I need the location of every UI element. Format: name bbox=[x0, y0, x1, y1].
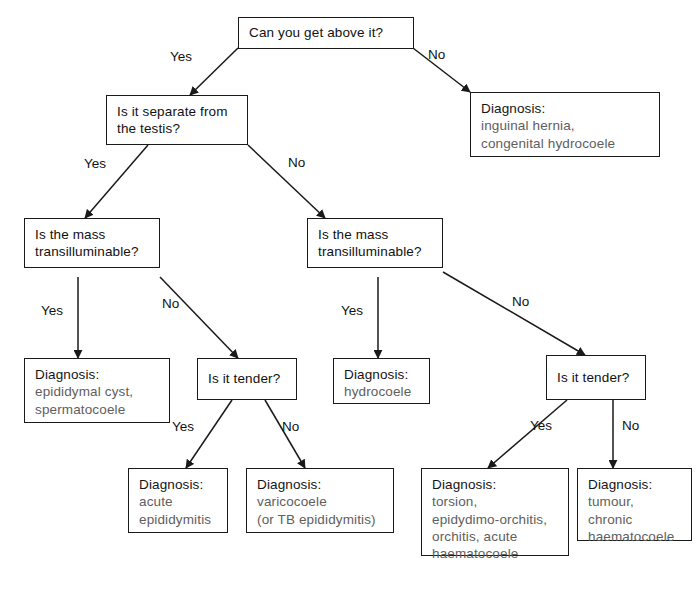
diagnosis-label: Diagnosis: bbox=[588, 476, 682, 493]
node-diagnosis-epididymal-cyst[interactable]: Diagnosis: epididymal cyst, spermatocoel… bbox=[24, 358, 170, 423]
node-text-line: the testis? bbox=[117, 120, 238, 137]
node-is-it-tender-right[interactable]: Is it tender? bbox=[546, 355, 646, 400]
node-text-line: Is it tender? bbox=[208, 370, 287, 387]
diagnosis-label: Diagnosis: bbox=[344, 366, 420, 383]
edge-label-tender-right-no: No bbox=[622, 418, 639, 433]
diagnosis-line: haematocoele bbox=[432, 545, 559, 562]
node-diagnosis-hydrocoele[interactable]: Diagnosis: hydrocoele bbox=[333, 358, 430, 404]
diagnosis-line: epididymitis bbox=[139, 511, 218, 528]
node-text-line: transilluminable? bbox=[318, 243, 433, 260]
diagnosis-line: congenital hydrocoele bbox=[481, 135, 650, 152]
edge-label-separate-yes: Yes bbox=[84, 156, 106, 171]
edge-label-separate-no: No bbox=[288, 155, 305, 170]
node-text-line: transilluminable? bbox=[35, 243, 150, 260]
diagnosis-line: varicocoele bbox=[257, 493, 384, 510]
diagnosis-line: hydrocoele bbox=[344, 383, 420, 400]
node-is-the-mass-transilluminable-right[interactable]: Is the mass transilluminable? bbox=[307, 218, 443, 268]
node-diagnosis-varicocoele[interactable]: Diagnosis: varicocoele (or TB epididymit… bbox=[246, 468, 394, 533]
diagnosis-label: Diagnosis: bbox=[35, 366, 160, 383]
node-diagnosis-acute-epididymitis[interactable]: Diagnosis: acute epididymitis bbox=[128, 468, 228, 533]
diagnosis-line: (or TB epididymitis) bbox=[257, 511, 384, 528]
edge-tender-left-yes bbox=[186, 400, 232, 468]
edge-label-translum-left-no: No bbox=[162, 296, 179, 311]
diagnosis-line: acute bbox=[139, 493, 218, 510]
edge-above-yes bbox=[190, 48, 238, 95]
diagnosis-line: chronic bbox=[588, 511, 682, 528]
node-diagnosis-tumour[interactable]: Diagnosis: tumour, chronic haematocoele bbox=[577, 468, 692, 541]
node-text-line: Can you get above it? bbox=[249, 24, 404, 41]
node-text-line: Is it tender? bbox=[557, 369, 636, 386]
diagnosis-label: Diagnosis: bbox=[481, 100, 650, 117]
node-text-line: Is it separate from bbox=[117, 103, 238, 120]
edge-label-translum-left-yes: Yes bbox=[41, 303, 63, 318]
diagnosis-line: spermatocoele bbox=[35, 401, 160, 418]
edge-label-translum-right-no: No bbox=[512, 294, 529, 309]
edge-label-tender-left-no: No bbox=[282, 419, 299, 434]
diagnosis-line: epidydimo-orchitis, bbox=[432, 511, 559, 528]
diagnosis-line: tumour, bbox=[588, 493, 682, 510]
node-diagnosis-inguinal-hernia[interactable]: Diagnosis: inguinal hernia, congenital h… bbox=[470, 92, 660, 157]
diagnosis-label: Diagnosis: bbox=[432, 476, 559, 493]
diagnosis-line: epididymal cyst, bbox=[35, 383, 160, 400]
edge-translum-left-no bbox=[160, 277, 238, 358]
node-can-you-get-above-it[interactable]: Can you get above it? bbox=[238, 17, 414, 49]
diagnosis-label: Diagnosis: bbox=[139, 476, 218, 493]
node-text-line: Is the mass bbox=[318, 226, 433, 243]
node-text-line: Is the mass bbox=[35, 226, 150, 243]
edge-label-translum-right-yes: Yes bbox=[341, 303, 363, 318]
diagnosis-line: torsion, bbox=[432, 493, 559, 510]
edge-translum-right-no bbox=[443, 272, 585, 355]
diagnosis-label: Diagnosis: bbox=[257, 476, 384, 493]
node-is-it-tender-left[interactable]: Is it tender? bbox=[197, 358, 297, 400]
edge-tender-left-no bbox=[265, 400, 305, 468]
diagnosis-line: orchitis, acute bbox=[432, 528, 559, 545]
flowchart-canvas: Can you get above it? Diagnosis: inguina… bbox=[0, 0, 697, 591]
diagnosis-line: haematocoele bbox=[588, 528, 682, 545]
edge-label-tender-left-yes: Yes bbox=[172, 419, 194, 434]
node-is-it-separate-from-the-testis[interactable]: Is it separate from the testis? bbox=[106, 95, 248, 145]
edge-tender-right-yes bbox=[488, 400, 567, 468]
node-is-the-mass-transilluminable-left[interactable]: Is the mass transilluminable? bbox=[24, 218, 160, 268]
diagnosis-line: inguinal hernia, bbox=[481, 117, 650, 134]
edge-separate-no bbox=[248, 145, 325, 218]
node-diagnosis-torsion[interactable]: Diagnosis: torsion, epidydimo-orchitis, … bbox=[421, 468, 569, 556]
edge-label-tender-right-yes: Yes bbox=[530, 418, 552, 433]
edge-label-above-no: No bbox=[428, 47, 445, 62]
edge-label-above-yes: Yes bbox=[170, 49, 192, 64]
